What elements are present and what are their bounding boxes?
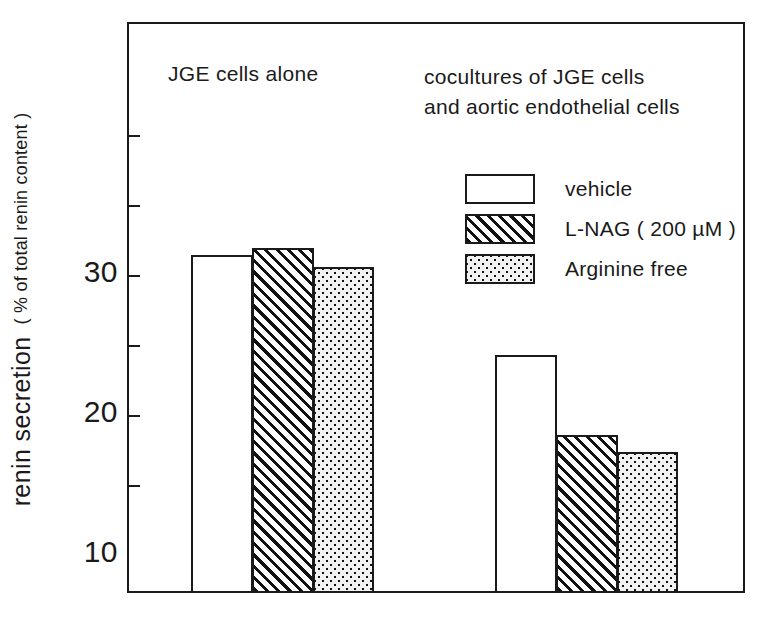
legend: vehicle L-NAG ( 200 µM ) Arginine free xyxy=(465,172,736,292)
legend-label-arginine-free: Arginine free xyxy=(565,257,688,281)
bar-group1-vehicle xyxy=(191,255,253,593)
legend-item-vehicle: vehicle xyxy=(465,172,736,206)
bar-group2-l-nag xyxy=(556,435,618,593)
y-tick-20 xyxy=(127,275,140,277)
y-tick-label-20: 20 xyxy=(60,395,118,429)
legend-item-arginine-free: Arginine free xyxy=(465,252,736,286)
open-rect-icon xyxy=(465,174,535,204)
y-axis-title-unit: ( % of total renin content ) xyxy=(11,113,32,325)
legend-label-l-nag: L-NAG ( 200 µM ) xyxy=(565,217,736,241)
y-tick-15 xyxy=(127,345,140,347)
y-tick-label-10: 10 xyxy=(60,535,118,569)
legend-label-vehicle: vehicle xyxy=(565,177,632,201)
bar-group1-l-nag xyxy=(252,248,314,593)
y-axis-title-main: renin secretion xyxy=(7,336,36,506)
y-axis-title: renin secretion ( % of total renin conte… xyxy=(0,0,42,619)
legend-item-l-nag: L-NAG ( 200 µM ) xyxy=(465,212,736,246)
group-label-jge-cells-alone: JGE cells alone xyxy=(168,62,318,86)
y-tick-5 xyxy=(127,485,140,487)
y-tick-10 xyxy=(127,415,140,417)
dotted-rect-icon xyxy=(465,254,535,284)
bar-group2-vehicle xyxy=(495,355,557,593)
group-label-cocultures-line2: and aortic endothelial cells xyxy=(424,92,680,122)
y-tick-25 xyxy=(127,205,140,207)
renin-secretion-bar-chart: renin secretion ( % of total renin conte… xyxy=(0,0,766,619)
hatched-rect-icon xyxy=(465,214,535,244)
y-tick-30 xyxy=(127,135,140,137)
group-label-cocultures-line1: cocultures of JGE cells xyxy=(424,62,680,92)
bar-group2-arginine-free xyxy=(617,452,678,593)
y-tick-label-30: 30 xyxy=(60,255,118,289)
bar-group1-arginine-free xyxy=(313,267,374,593)
group-label-cocultures: cocultures of JGE cells and aortic endot… xyxy=(424,62,680,123)
